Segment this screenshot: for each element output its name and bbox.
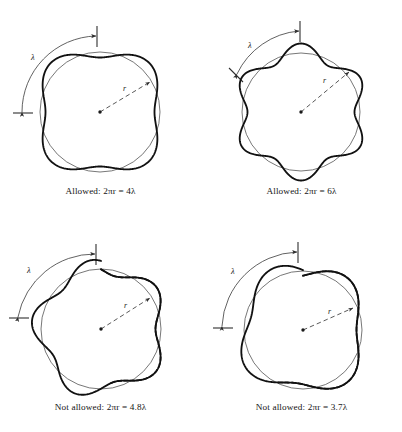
center-dot: [99, 327, 102, 330]
panel-top-right-diagram: λ r: [201, 0, 402, 216]
panel-bottom-left: λ r Not allowed: 2πr = 4.8λ: [0, 216, 201, 432]
wave-mismatch-dashed: [276, 271, 358, 389]
radius-label: r: [328, 307, 332, 316]
panel-bottom-left-diagram: λ r: [0, 216, 201, 432]
panel-top-right-caption: Allowed: 2πr = 6λ: [201, 186, 402, 196]
wavelength-label: λ: [26, 265, 31, 275]
radius-label: r: [323, 76, 327, 85]
center-dot: [98, 110, 101, 113]
panel-top-right: λ r Allowed: 2πr = 6λ: [201, 0, 402, 216]
panel-top-left-caption: Allowed: 2πr = 4λ: [0, 186, 201, 196]
standing-wave: [32, 260, 161, 395]
panel-top-left: λ r Allowed: 2πr = 4λ: [0, 0, 201, 216]
wavelength-label: λ: [230, 266, 235, 276]
radius-label: r: [124, 301, 128, 310]
de-broglie-orbit-figure: λ r Allowed: 2πr = 4λ: [0, 0, 402, 432]
panel-bottom-right: λ r Not allowed: 2πr = 3.7λ: [201, 216, 402, 432]
panel-bottom-right-diagram: λ r: [201, 216, 402, 432]
wavelength-label: λ: [247, 40, 252, 50]
panel-bottom-left-caption: Not allowed: 2πr = 4.8λ: [0, 402, 201, 412]
standing-wave: [241, 266, 358, 389]
wavelength-arc: [222, 252, 297, 326]
center-dot: [301, 328, 304, 331]
center-dot: [299, 110, 302, 113]
panel-bottom-right-caption: Not allowed: 2πr = 3.7λ: [201, 402, 402, 412]
wave-mismatch-dashed: [101, 269, 161, 383]
panel-top-left-diagram: λ r: [0, 0, 201, 216]
radius-label: r: [123, 84, 127, 93]
